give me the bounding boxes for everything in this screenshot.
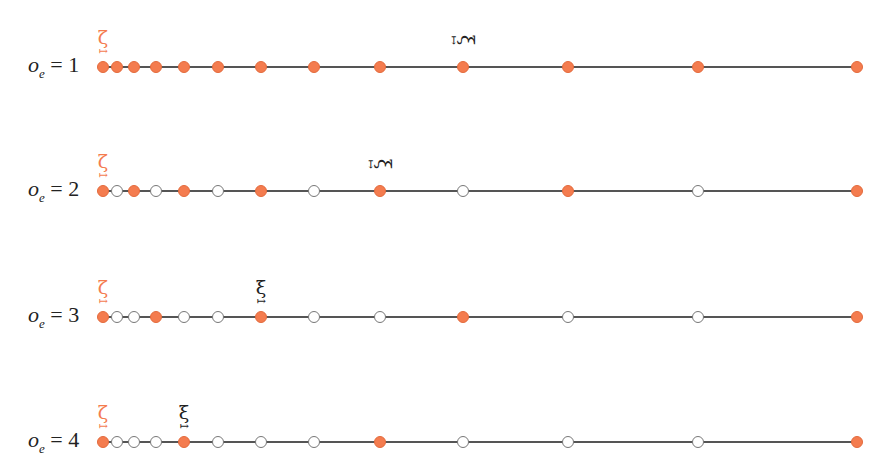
xi-arrow-icon: ↦	[251, 297, 271, 307]
empty-knot-node	[692, 185, 704, 197]
xi-arrow-icon: ↦	[365, 154, 375, 174]
filled-knot-node	[150, 61, 162, 73]
empty-knot-node	[457, 185, 469, 197]
filled-knot-node	[562, 61, 574, 73]
row-label-4: oe = 4	[28, 427, 79, 457]
xi-symbol: ξ	[375, 154, 395, 174]
filled-knot-node	[150, 311, 162, 323]
zeta-marker: ζ↦	[93, 402, 113, 432]
empty-knot-node	[212, 436, 224, 448]
filled-knot-node	[308, 61, 320, 73]
label-equals-value: = 1	[45, 52, 79, 77]
xi-marker: ξ↦	[251, 277, 271, 307]
filled-knot-node	[692, 61, 704, 73]
empty-knot-node	[111, 185, 123, 197]
empty-knot-node	[562, 311, 574, 323]
label-variable: o	[28, 302, 39, 327]
filled-knot-node	[851, 61, 863, 73]
filled-knot-node	[255, 311, 267, 323]
zeta-arrow-icon: ↦	[93, 47, 113, 57]
empty-knot-node	[308, 185, 320, 197]
xi-symbol: ξ	[251, 277, 271, 297]
empty-knot-node	[150, 185, 162, 197]
label-equals-value: = 4	[45, 427, 79, 452]
filled-knot-node	[97, 185, 109, 197]
filled-knot-node	[128, 185, 140, 197]
filled-knot-node	[851, 311, 863, 323]
empty-knot-node	[212, 185, 224, 197]
label-equals-value: = 2	[45, 176, 79, 201]
xi-arrow-icon: ↦	[174, 422, 194, 432]
filled-knot-node	[374, 436, 386, 448]
filled-knot-node	[457, 61, 469, 73]
filled-knot-node	[97, 311, 109, 323]
filled-knot-node	[457, 311, 469, 323]
row-label-2: oe = 2	[28, 176, 79, 206]
zeta-arrow-icon: ↦	[93, 171, 113, 181]
row-label-3: oe = 3	[28, 302, 79, 332]
filled-knot-node	[374, 185, 386, 197]
zeta-arrow-icon: ↦	[93, 422, 113, 432]
filled-knot-node	[178, 61, 190, 73]
row-label-1: oe = 1	[28, 52, 79, 82]
empty-knot-node	[457, 436, 469, 448]
zeta-marker: ζ↦	[93, 27, 113, 57]
filled-knot-node	[111, 61, 123, 73]
empty-knot-node	[128, 436, 140, 448]
filled-knot-node	[255, 185, 267, 197]
filled-knot-node	[212, 61, 224, 73]
filled-knot-node	[97, 436, 109, 448]
knot-refinement-diagram: oe = 1ζ↦ξ↦oe = 2ζ↦ξ↦oe = 3ζ↦ξ↦oe = 4ζ↦ξ↦	[0, 0, 894, 472]
label-equals-value: = 3	[45, 302, 79, 327]
filled-knot-node	[128, 61, 140, 73]
label-variable: o	[28, 427, 39, 452]
empty-knot-node	[150, 436, 162, 448]
zeta-symbol: ζ	[93, 151, 113, 171]
empty-knot-node	[255, 436, 267, 448]
zeta-symbol: ζ	[93, 402, 113, 422]
zeta-marker: ζ↦	[93, 151, 113, 181]
filled-knot-node	[851, 436, 863, 448]
label-variable: o	[28, 176, 39, 201]
filled-knot-node	[562, 185, 574, 197]
zeta-symbol: ζ	[93, 277, 113, 297]
filled-knot-node	[374, 61, 386, 73]
zeta-symbol: ζ	[93, 27, 113, 47]
empty-knot-node	[308, 311, 320, 323]
xi-symbol: ξ	[458, 30, 478, 50]
empty-knot-node	[308, 436, 320, 448]
xi-marker: ξ↦	[174, 402, 194, 432]
filled-knot-node	[97, 61, 109, 73]
xi-arrow-icon: ↦	[448, 30, 458, 50]
filled-knot-node	[178, 436, 190, 448]
zeta-arrow-icon: ↦	[93, 297, 113, 307]
empty-knot-node	[111, 311, 123, 323]
empty-knot-node	[692, 311, 704, 323]
empty-knot-node	[374, 311, 386, 323]
empty-knot-node	[111, 436, 123, 448]
filled-knot-node	[851, 185, 863, 197]
filled-knot-node	[178, 185, 190, 197]
empty-knot-node	[562, 436, 574, 448]
xi-marker: ξ↦	[365, 154, 395, 174]
label-variable: o	[28, 52, 39, 77]
empty-knot-node	[128, 311, 140, 323]
empty-knot-node	[212, 311, 224, 323]
empty-knot-node	[692, 436, 704, 448]
xi-symbol: ξ	[174, 402, 194, 422]
zeta-marker: ζ↦	[93, 277, 113, 307]
filled-knot-node	[255, 61, 267, 73]
empty-knot-node	[178, 311, 190, 323]
xi-marker: ξ↦	[448, 30, 478, 50]
